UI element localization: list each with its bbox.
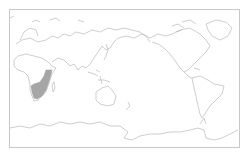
southeast-asia-islands [88, 70, 110, 84]
antarctic-peninsula [200, 118, 206, 124]
north-america-coastline [150, 28, 210, 72]
world-map [0, 0, 249, 156]
antarctica-coastline [10, 122, 238, 140]
madagascar-coastline [52, 82, 55, 92]
greenland-coastline [206, 20, 232, 40]
south-america-coastline [192, 76, 224, 118]
canadian-archipelago [172, 20, 196, 32]
australia-coastline [96, 86, 116, 106]
new-zealand-coastline [126, 102, 130, 110]
arctic-islands [10, 16, 84, 22]
japan-coastline [104, 44, 108, 60]
asia-coastline [52, 34, 150, 70]
